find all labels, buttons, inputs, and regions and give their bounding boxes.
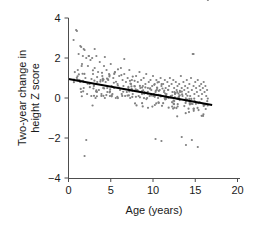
- scatter-point: [196, 107, 198, 109]
- scatter-point: [83, 48, 85, 50]
- scatter-point: [115, 81, 117, 83]
- scatter-point: [193, 97, 195, 99]
- scatter-point: [160, 140, 162, 142]
- scatter-point: [88, 55, 90, 57]
- scatter-point: [161, 105, 163, 107]
- y-axis-tick-label: −4: [48, 172, 61, 184]
- scatter-point: [82, 90, 84, 92]
- scatter-point: [195, 87, 197, 89]
- scatter-point: [132, 76, 134, 78]
- scatter-point: [155, 79, 157, 81]
- scatter-point: [166, 81, 168, 83]
- scatter-point: [137, 81, 139, 83]
- scatter-point: [87, 65, 89, 67]
- scatter-point: [74, 71, 76, 73]
- scatter-point: [83, 87, 85, 89]
- scatter-point: [141, 102, 143, 104]
- chart-canvas: −4−2024 05101520 Age (years) Two-year ch…: [0, 0, 262, 232]
- scatter-point: [163, 89, 165, 91]
- scatter-point: [145, 98, 147, 100]
- scatter-point: [80, 88, 82, 90]
- scatter-point: [134, 85, 136, 87]
- scatter-point: [81, 95, 83, 97]
- scatter-point: [206, 89, 208, 91]
- scatter-point: [172, 79, 174, 81]
- scatter-point: [169, 77, 171, 79]
- scatter-point: [187, 87, 189, 89]
- scatter-point: [132, 93, 134, 95]
- scatter-point: [156, 86, 158, 88]
- scatter-point: [93, 95, 95, 97]
- scatter-point: [181, 93, 183, 95]
- scatter-point: [101, 72, 103, 74]
- scatter-point: [190, 98, 192, 100]
- scatter-point: [89, 86, 91, 88]
- scatter-point: [109, 90, 111, 92]
- scatter-point: [118, 75, 120, 77]
- scatter-point: [112, 77, 114, 79]
- scatter-point: [110, 63, 112, 65]
- scatter-point: [135, 104, 137, 106]
- scatter-point: [83, 155, 85, 157]
- scatter-point: [105, 69, 107, 71]
- scatter-point: [168, 85, 170, 87]
- scatter-point: [91, 104, 93, 106]
- scatter-point: [92, 87, 94, 89]
- scatter-point: [123, 58, 125, 60]
- scatter-point: [176, 85, 178, 87]
- scatter-point: [98, 89, 100, 91]
- scatter-point: [185, 93, 187, 95]
- scatter-point: [103, 65, 105, 67]
- scatter-point: [198, 95, 200, 97]
- scatter-point: [189, 102, 191, 104]
- scatter-point: [202, 115, 204, 117]
- scatter-point: [171, 106, 173, 108]
- x-axis-tick-label: 10: [147, 184, 159, 196]
- scatter-point: [100, 93, 102, 95]
- scatter-point: [135, 88, 137, 90]
- scatter-point: [129, 80, 131, 82]
- scatter-point: [127, 86, 129, 88]
- scatter-point: [158, 102, 160, 104]
- scatter-point: [191, 89, 193, 91]
- y-axis-tick-label: 0: [54, 92, 60, 104]
- scatter-point: [200, 98, 202, 100]
- scatter-point: [182, 81, 184, 83]
- scatter-point: [111, 94, 113, 96]
- scatter-point: [121, 79, 123, 81]
- scatter-point: [142, 105, 144, 107]
- scatter-point: [143, 97, 145, 99]
- scatter-point: [161, 83, 163, 85]
- scatter-point: [184, 85, 186, 87]
- scatter-point: [106, 87, 108, 89]
- scatter-point: [197, 109, 199, 111]
- scatter-point: [170, 83, 172, 85]
- scatter-point: [178, 83, 180, 85]
- scatter-point: [94, 97, 96, 99]
- scatter-point: [201, 93, 203, 95]
- scatter-point: [158, 90, 160, 92]
- scatter-point: [93, 80, 95, 82]
- scatter-point: [99, 81, 101, 83]
- scatter-point: [192, 53, 194, 55]
- scatter-point: [154, 104, 156, 106]
- x-axis-tick-label: 15: [189, 184, 201, 196]
- scatter-point: [81, 73, 83, 75]
- scatter-point: [188, 111, 190, 113]
- scatter-point: [104, 97, 106, 99]
- scatter-point: [113, 82, 115, 84]
- scatter-point: [205, 95, 207, 97]
- scatter-point: [92, 73, 94, 75]
- scatter-point: [144, 83, 146, 85]
- scatter-point: [203, 91, 205, 93]
- scatter-point: [164, 92, 166, 94]
- scatter-point: [200, 83, 202, 85]
- scatter-point: [161, 87, 163, 89]
- scatter-point: [173, 107, 175, 109]
- scatter-point: [94, 67, 96, 69]
- scatter-point: [138, 71, 140, 73]
- scatter-point: [162, 102, 164, 104]
- scatter-point: [190, 77, 192, 79]
- scatter-point: [105, 94, 107, 96]
- scatter-point: [96, 81, 98, 83]
